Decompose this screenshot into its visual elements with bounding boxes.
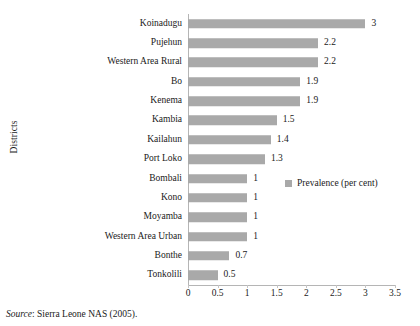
category-label: Kono bbox=[161, 193, 182, 203]
bar-value-label: 0.7 bbox=[235, 251, 247, 261]
bar[interactable] bbox=[188, 77, 300, 87]
bar[interactable] bbox=[188, 19, 365, 29]
bar[interactable] bbox=[188, 232, 247, 242]
y-axis-title: Districts bbox=[9, 102, 19, 172]
bar-value-label: 1.4 bbox=[277, 135, 289, 145]
bar[interactable] bbox=[188, 116, 277, 126]
category-label: Kailahun bbox=[147, 135, 182, 145]
bar[interactable] bbox=[188, 174, 247, 184]
category-label: Western Area Urban bbox=[105, 232, 182, 242]
bar-value-label: 2.2 bbox=[324, 58, 336, 68]
bar[interactable] bbox=[188, 193, 247, 203]
bar-row: Kambia1.5 bbox=[188, 111, 395, 130]
bar-row: Kenema1.9 bbox=[188, 91, 395, 110]
bar[interactable] bbox=[188, 96, 300, 106]
x-tick-label: 2.5 bbox=[330, 288, 342, 298]
bar-value-label: 1.5 bbox=[283, 116, 295, 126]
bar[interactable] bbox=[188, 154, 265, 164]
category-label: Koinadugu bbox=[140, 19, 182, 29]
category-label: Port Loko bbox=[144, 154, 182, 164]
bar-value-label: 1.9 bbox=[306, 77, 318, 87]
category-label: Western Area Rural bbox=[107, 58, 182, 68]
bar-value-label: 3 bbox=[371, 19, 376, 29]
chart-legend: Prevalence (per cent) bbox=[285, 179, 378, 189]
bar-value-label: 1.3 bbox=[271, 154, 283, 164]
bar[interactable] bbox=[188, 212, 247, 222]
bar-row: Kailahun1.4 bbox=[188, 130, 395, 149]
plot-area: Koinadugu3Pujehun2.2Western Area Rural2.… bbox=[188, 14, 395, 285]
bar[interactable] bbox=[188, 58, 318, 68]
bar-value-label: 1 bbox=[253, 232, 258, 242]
category-label: Tonkolili bbox=[147, 271, 182, 281]
category-label: Bombali bbox=[149, 174, 182, 184]
bar[interactable] bbox=[188, 251, 229, 261]
bar-row: Koinadugu3 bbox=[188, 14, 395, 33]
bar-row: Moyamba1 bbox=[188, 208, 395, 227]
category-label: Moyamba bbox=[143, 212, 182, 222]
source-word: Source bbox=[6, 309, 32, 319]
x-tick-label: 3.5 bbox=[389, 288, 401, 298]
x-tick-label: 1 bbox=[245, 288, 250, 298]
bar-value-label: 1 bbox=[253, 212, 258, 222]
x-tick-label: 2 bbox=[304, 288, 309, 298]
x-tick-label: 0.5 bbox=[212, 288, 224, 298]
category-label: Kambia bbox=[152, 116, 182, 126]
bar-row: Western Area Urban1 bbox=[188, 227, 395, 246]
bar[interactable] bbox=[188, 135, 271, 145]
x-tick-label: 3 bbox=[363, 288, 368, 298]
x-tick-label: 0 bbox=[186, 288, 191, 298]
bar-row: Tonkolili0.5 bbox=[188, 266, 395, 285]
bar[interactable] bbox=[188, 271, 218, 281]
x-axis-line bbox=[188, 285, 395, 286]
category-label: Kenema bbox=[150, 96, 182, 106]
bar-row: Port Loko1.3 bbox=[188, 150, 395, 169]
bar-value-label: 2.2 bbox=[324, 38, 336, 48]
bar-row: Bonthe0.7 bbox=[188, 246, 395, 265]
bar-value-label: 1.9 bbox=[306, 96, 318, 106]
bar-value-label: 1 bbox=[253, 174, 258, 184]
legend-swatch-prevalence bbox=[285, 180, 292, 187]
bar-row: Pujehun2.2 bbox=[188, 33, 395, 52]
category-label: Bonthe bbox=[155, 251, 182, 261]
bar-row: Bo1.9 bbox=[188, 72, 395, 91]
legend-label-prevalence: Prevalence (per cent) bbox=[297, 179, 378, 189]
bar-value-label: 0.5 bbox=[224, 271, 236, 281]
source-caption: Source: Sierra Leone NAS (2005). bbox=[6, 309, 137, 319]
bar[interactable] bbox=[188, 38, 318, 48]
category-label: Bo bbox=[171, 77, 182, 87]
x-tick-label: 1.5 bbox=[271, 288, 283, 298]
bar-row: Western Area Rural2.2 bbox=[188, 53, 395, 72]
bar-chart: Districts Koinadugu3Pujehun2.2Western Ar… bbox=[0, 0, 420, 326]
category-label: Pujehun bbox=[151, 38, 182, 48]
bar-row: Kono1 bbox=[188, 188, 395, 207]
bar-value-label: 1 bbox=[253, 193, 258, 203]
source-text: : Sierra Leone NAS (2005). bbox=[32, 309, 137, 319]
